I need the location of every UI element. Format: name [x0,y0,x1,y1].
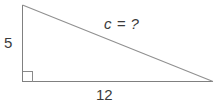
horizontal-leg-label: 12 [96,87,113,102]
geometry-figure: 5 12 c = ? [0,0,221,107]
hypotenuse-label: c = ? [104,16,139,31]
right-angle-marker-icon [23,72,33,82]
vertical-leg-label: 5 [4,35,12,50]
